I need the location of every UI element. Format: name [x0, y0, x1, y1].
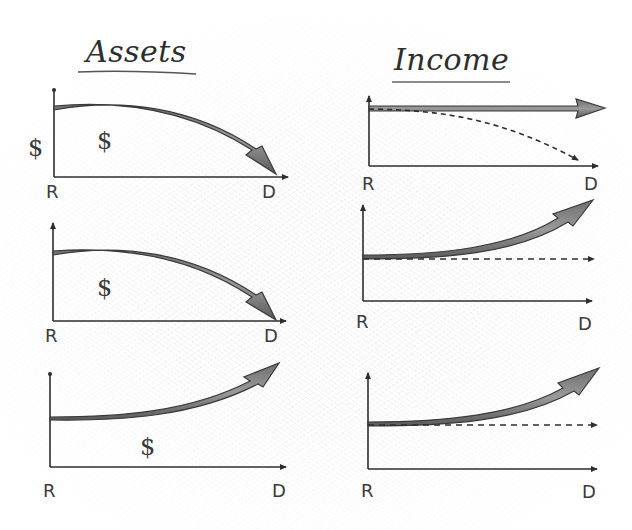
declining-income-dashed-line [369, 109, 578, 160]
income-panel-1: R D [362, 96, 605, 194]
x-start-label: R [45, 325, 58, 346]
x-end-label: D [582, 481, 596, 502]
income-column-header: Income [392, 42, 510, 82]
x-start-label: R [356, 311, 369, 332]
growing-income-arrow [363, 200, 593, 259]
x-end-label: D [584, 173, 598, 194]
x-end-label: D [272, 480, 286, 501]
x-start-label: R [361, 480, 374, 501]
assets-title: Assets [83, 34, 187, 69]
x-start-label: R [46, 181, 59, 202]
area-dollar-label: $ [97, 127, 112, 155]
flat-income-arrow [369, 99, 605, 118]
y-axis-dollar-label: $ [28, 134, 43, 162]
assets-panel-1: $ $ R D [28, 90, 288, 202]
declining-assets-arrow [53, 250, 276, 320]
assets-title-underline [78, 71, 196, 74]
income-title: Income [393, 42, 509, 77]
x-end-label: D [264, 325, 278, 346]
assets-panel-3: $ R D [43, 363, 286, 501]
area-dollar-label: $ [97, 274, 112, 302]
x-start-label: R [43, 480, 56, 501]
x-start-label: R [362, 173, 375, 194]
diagram-canvas: Assets Income $ $ R D $ R D [0, 0, 632, 530]
assets-column-header: Assets [78, 34, 196, 74]
assets-panel-2: $ R D [45, 223, 286, 346]
income-panel-3: R D [361, 368, 599, 502]
x-end-label: D [578, 313, 592, 334]
declining-assets-arrow [54, 104, 276, 174]
area-dollar-label: $ [140, 433, 155, 461]
income-panel-2: R D [356, 200, 594, 334]
x-end-label: D [262, 181, 276, 202]
growing-income-arrow [368, 368, 599, 426]
diagram-svg: Assets Income $ $ R D $ R D [0, 0, 632, 530]
growing-assets-arrow [50, 363, 279, 420]
